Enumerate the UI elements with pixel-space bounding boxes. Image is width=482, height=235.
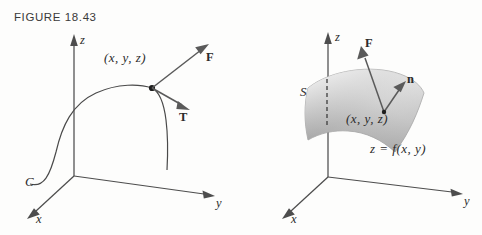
x-axis-label-right: x [291,212,297,227]
z-axis-label-right: z [335,30,340,45]
x-axis-right [282,177,328,219]
figure-sheet: FIGURE 18.43 [0,0,482,235]
surface-label-s: S [300,84,307,100]
surface-equation-label: z = f(x, y) [370,141,426,157]
figure-panel-18-44: FIGURE 18.44 [241,0,482,235]
figure-18-44-graphic [0,0,482,235]
y-axis-right [328,177,463,197]
y-axis-label-right: y [464,194,470,209]
vector-label-f-right: F [365,36,373,51]
vector-label-n-right: n [407,72,414,87]
point-label-right: (x, y, z) [346,111,388,127]
